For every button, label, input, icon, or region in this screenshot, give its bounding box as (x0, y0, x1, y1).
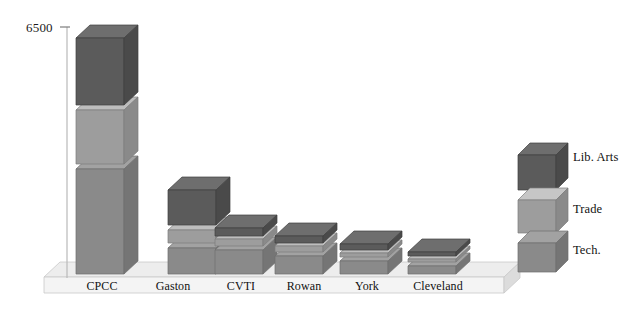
bar-group-rowan (275, 223, 337, 274)
bar-group-york (340, 231, 402, 274)
bar-segment-gaston-libarts (168, 177, 230, 225)
legend-label-tech: Tech. (573, 243, 601, 258)
x-axis-label-cleveland: Cleveland (398, 279, 478, 294)
legend-swatches (518, 143, 568, 272)
chart-scene (0, 0, 640, 319)
bar-group-cleveland (408, 239, 470, 274)
bar-segment-cpcc-tech (76, 156, 138, 274)
x-axis-label-gaston: Gaston (140, 279, 206, 294)
y-axis (60, 27, 70, 278)
legend-label-lib-arts: Lib. Arts (573, 150, 618, 165)
x-axis-label-cvti: CVTI (212, 279, 270, 294)
bar-group-cvti (215, 215, 277, 274)
legend-swatch-trade (518, 188, 568, 233)
legend-swatch-tech (518, 231, 568, 272)
stacked-bar-chart: 6500 CPCC Gaston CVTI Rowan York Clevela… (0, 0, 640, 319)
legend-swatch-lib-arts (518, 143, 568, 190)
x-axis-label-rowan: Rowan (272, 279, 336, 294)
bar-segment-cpcc-libarts (76, 25, 138, 105)
legend-label-trade: Trade (573, 202, 602, 217)
bar-group-cpcc (76, 25, 138, 274)
bar-segment-cpcc-trade (76, 97, 138, 164)
x-axis-label-cpcc: CPCC (72, 279, 132, 294)
y-axis-tick-label-6500: 6500 (26, 20, 53, 36)
x-axis-label-york: York (340, 279, 394, 294)
